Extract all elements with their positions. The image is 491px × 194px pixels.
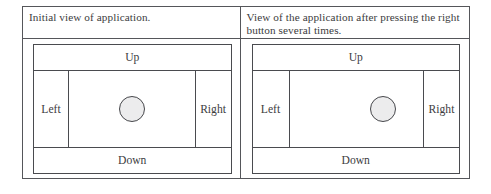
up-button[interactable]: Up <box>34 45 231 71</box>
application-window-initial: Up Left Right Down <box>33 44 232 174</box>
up-button[interactable]: Up <box>253 45 459 71</box>
right-button[interactable]: Right <box>423 71 459 147</box>
panel-initial: Initial view of application. Up Left Rig… <box>23 7 241 178</box>
left-button[interactable]: Left <box>253 71 290 147</box>
ball-shape <box>119 96 145 122</box>
ball-shape <box>370 96 396 122</box>
drawing-canvas-initial[interactable] <box>69 71 195 147</box>
left-button[interactable]: Left <box>34 71 69 147</box>
panel-initial-caption: Initial view of application. <box>23 7 240 39</box>
panel-after-caption: View of the application after pressing t… <box>241 7 469 39</box>
panel-after-app-area: Up Left Right Down <box>241 39 469 178</box>
figure-row: Initial view of application. Up Left Rig… <box>23 7 469 178</box>
application-window-after: Up Left Right Down <box>252 44 460 174</box>
drawing-canvas-after[interactable] <box>290 71 423 147</box>
comparison-figure: Initial view of application. Up Left Rig… <box>22 6 470 179</box>
down-button[interactable]: Down <box>34 147 231 173</box>
middle-row-initial: Left Right <box>34 71 231 147</box>
panel-after-right-presses: View of the application after pressing t… <box>241 7 469 178</box>
middle-row-after: Left Right <box>253 71 459 147</box>
right-button[interactable]: Right <box>195 71 231 147</box>
panel-initial-app-area: Up Left Right Down <box>23 39 240 178</box>
down-button[interactable]: Down <box>253 147 459 173</box>
